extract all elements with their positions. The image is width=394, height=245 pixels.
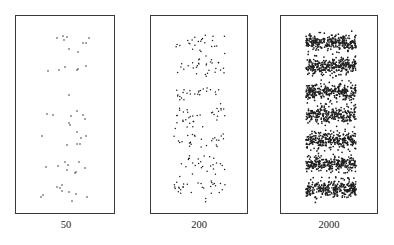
scatter-plot-50 (16, 16, 116, 215)
panel-50 (15, 15, 115, 214)
panel-label-2000: 2000 (279, 219, 379, 230)
panel-2000 (280, 15, 378, 214)
panel-label-200: 200 (149, 219, 249, 230)
scatter-plot-200 (151, 16, 249, 215)
panel-label-50: 50 (16, 219, 116, 230)
scatter-plot-2000 (281, 16, 379, 215)
panel-200 (150, 15, 248, 214)
